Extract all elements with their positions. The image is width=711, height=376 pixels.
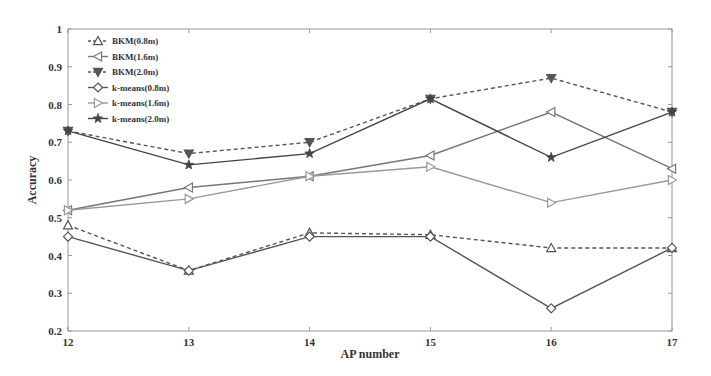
x-tick-label: 14 [304, 336, 316, 348]
x-tick-label: 13 [183, 336, 195, 348]
legend-item: BKM(2.0m) [88, 67, 158, 77]
y-tick-label: 0.5 [48, 212, 62, 224]
line-chart: 0.20.30.40.50.60.70.80.91 121314151617 B… [0, 0, 711, 376]
y-tick-label: 0.4 [48, 250, 62, 262]
y-tick-label: 0.9 [48, 61, 62, 73]
legend-label: k-means(2.0m) [112, 114, 169, 124]
x-tick-label: 16 [546, 336, 558, 348]
legend-label: k-means(1.6m) [112, 98, 169, 108]
legend-label: k-means(0.8m) [112, 83, 169, 93]
y-tick-label: 0.2 [48, 325, 62, 337]
y-tick-label: 0.8 [48, 99, 62, 111]
legend-label: BKM(0.8m) [112, 36, 158, 46]
legend-label: BKM(1.6m) [112, 52, 158, 62]
x-tick-label: 17 [667, 336, 679, 348]
y-tick-label: 0.6 [48, 174, 62, 186]
x-axis-label: AP number [340, 347, 400, 361]
y-axis-label: Accuracy [25, 156, 39, 205]
x-tick-label: 12 [63, 336, 75, 348]
plot-area [68, 29, 672, 331]
y-tick-label: 1 [57, 23, 63, 35]
x-tick-label: 15 [425, 336, 437, 348]
y-tick-label: 0.7 [48, 136, 62, 148]
y-tick-label: 0.3 [48, 287, 62, 299]
legend-label: BKM(2.0m) [112, 67, 158, 77]
legend-item: BKM(0.8m) [88, 36, 158, 46]
